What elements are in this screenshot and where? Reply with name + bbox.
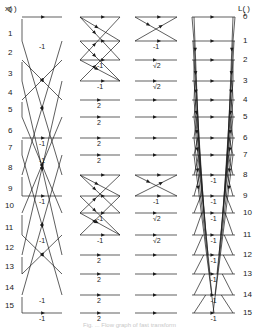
edge: [194, 274, 205, 295]
edge-weight-label: √2: [153, 237, 161, 245]
output-header-sub: 1: [243, 10, 246, 18]
arrowhead-icon: [210, 39, 214, 43]
arrowhead-icon: [153, 293, 157, 297]
edge-weight-label: -1: [39, 157, 45, 165]
arrowhead-icon: [210, 79, 214, 83]
edge: [233, 17, 235, 41]
edge-weight-label: -1: [97, 215, 103, 223]
arrowhead-icon: [153, 98, 157, 102]
output-index-label: 3: [243, 77, 247, 85]
arrowhead-icon: [210, 136, 214, 140]
output-index-label: 15: [243, 309, 252, 317]
arrowhead-icon: [153, 311, 157, 315]
edge: [192, 17, 194, 41]
arrowhead-icon: [153, 115, 157, 119]
input-index-label: 1: [8, 30, 12, 38]
output-index-label: 13: [243, 270, 252, 278]
input-index-label: 2: [8, 49, 12, 57]
input-header: x( ): [5, 5, 17, 13]
edge: [80, 17, 120, 41]
edge-weight-label: √2: [153, 215, 161, 223]
edge: [194, 138, 212, 295]
edge-weight-label: 2: [97, 257, 101, 265]
edge-weight-label: √2: [153, 83, 161, 91]
edge-weight-label: 2: [97, 140, 101, 148]
edge-weight-label: -1: [39, 43, 45, 51]
input-index-label: 9: [8, 185, 12, 193]
edge: [221, 295, 233, 313]
edge-weight-label: -1: [39, 140, 45, 148]
edge-weight-label: -1: [211, 297, 217, 305]
input-index-label: 7: [8, 144, 12, 152]
output-index-label: 6: [243, 134, 247, 142]
output-index-label: 4: [243, 96, 247, 104]
edge-weight-label: 2: [97, 276, 101, 284]
input-index-label: 12: [5, 244, 14, 252]
output-index-label: 11: [243, 231, 251, 239]
input-index-label: 8: [8, 164, 12, 172]
edge: [194, 255, 204, 274]
arrowhead-icon: [210, 98, 214, 102]
input-index-label: 14: [5, 284, 14, 292]
input-index-label: 6: [8, 127, 12, 135]
edge: [215, 138, 233, 295]
arrowhead-icon: [210, 153, 214, 157]
output-index-label: 12: [243, 251, 252, 259]
edge-weight-label: -1: [97, 237, 103, 245]
edge-weight-label: 2: [97, 102, 101, 110]
edge-weight-label: -1: [211, 257, 217, 265]
edge: [224, 235, 233, 255]
output-index-label: 1: [243, 37, 247, 45]
input-index-label: 10: [5, 202, 14, 210]
edge-weight-label: 2: [97, 119, 101, 127]
edge: [194, 213, 202, 235]
edge-weight-label: -1: [39, 198, 45, 206]
input-index-label: 5: [8, 106, 12, 114]
input-index-label: 3: [8, 70, 12, 78]
edge: [217, 117, 233, 274]
edge-weight-label: -1: [97, 83, 103, 91]
output-index-label: 14: [243, 291, 252, 299]
arrowhead-icon: [157, 173, 161, 177]
figure-caption: Fig. ... Flow graph of fast transform: [0, 322, 259, 328]
edge: [225, 213, 233, 235]
arrowhead-icon: [230, 48, 234, 52]
edge: [222, 274, 233, 295]
edge: [194, 235, 203, 255]
arrowhead-icon: [153, 136, 157, 140]
arrowhead-icon: [210, 58, 214, 62]
input-index-label: 15: [5, 302, 14, 310]
input-index-label: 4: [8, 89, 12, 97]
edge: [223, 255, 233, 274]
arrowhead-icon: [153, 153, 157, 157]
output-index-label: 2: [243, 56, 247, 64]
edge-weight-label: -1: [211, 276, 217, 284]
input-index-label: 11: [5, 224, 13, 232]
edge: [194, 117, 210, 274]
edge-weight-label: -1: [211, 237, 217, 245]
arrowhead-icon: [101, 15, 105, 19]
output-index-label: 5: [243, 113, 247, 121]
arrowhead-icon: [210, 15, 214, 19]
arrowhead-icon: [153, 272, 157, 276]
arrowhead-icon: [41, 15, 45, 19]
arrowhead-icon: [210, 115, 214, 119]
arrowhead-icon: [153, 253, 157, 257]
edge-weight-label: -1: [211, 215, 217, 223]
input-index-label: 13: [5, 263, 14, 271]
arrowhead-icon: [157, 15, 161, 19]
edge-weight-label: -1: [211, 198, 217, 206]
edge-weight-label: -1: [153, 198, 159, 206]
edge-weight-label: -1: [153, 43, 159, 51]
output-index-label: 9: [243, 192, 247, 200]
arrowhead-icon: [193, 48, 197, 52]
edge-weight-label: -1: [211, 177, 217, 185]
output-index-label: 10: [243, 209, 252, 217]
output-index-label: 8: [243, 171, 247, 179]
edge: [80, 175, 120, 196]
edge-weight-label: -1: [97, 62, 103, 70]
edge-weight-label: 2: [97, 297, 101, 305]
edge-weight-label: 2: [97, 157, 101, 165]
edge-weight-label: -1: [39, 237, 45, 245]
edge: [194, 295, 206, 313]
